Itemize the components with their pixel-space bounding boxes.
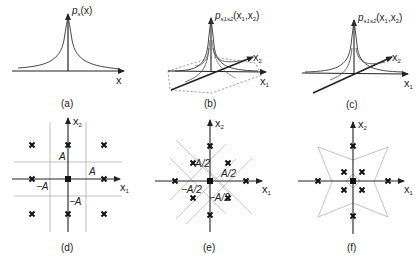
x2label: x2 bbox=[392, 51, 402, 64]
svg-text:−A: −A bbox=[69, 196, 82, 207]
dashed-plane bbox=[168, 57, 262, 93]
x1label: x1 bbox=[120, 181, 130, 194]
svg-text:A/2: A/2 bbox=[194, 158, 210, 169]
x2label: x2 bbox=[73, 115, 83, 128]
svg-text:−A/2: −A/2 bbox=[181, 184, 202, 195]
panel-f: x2 x1 (f) bbox=[298, 118, 414, 253]
svg-text:A/2: A/2 bbox=[220, 168, 236, 179]
svg-text:A: A bbox=[88, 166, 96, 177]
zlabel: ps1s2(x1,x2) bbox=[357, 12, 402, 24]
svg-text:−A: −A bbox=[36, 181, 49, 192]
svg-text:−A/2: −A/2 bbox=[209, 192, 230, 203]
x1label: x1 bbox=[262, 183, 272, 196]
x1label: x1 bbox=[404, 183, 414, 196]
panel-c: ps1s2(x1,x2) x2 x1 (c) bbox=[302, 12, 414, 110]
x1label: x1 bbox=[260, 75, 270, 88]
figure: ps(x) x (a) ps1s2(x1,x2) x2 x1 (b) ps1s2… bbox=[0, 0, 420, 261]
caption-e: (e) bbox=[203, 242, 215, 253]
panel-a: ps(x) x (a) bbox=[12, 5, 124, 109]
x2-axis bbox=[171, 57, 253, 90]
svg-text:A: A bbox=[58, 151, 66, 162]
caption-c: (c) bbox=[346, 99, 358, 110]
xlabel: x bbox=[116, 74, 122, 86]
ylabel: ps(x) bbox=[71, 5, 92, 17]
x1label: x1 bbox=[404, 77, 414, 90]
zlabel: ps1s2(x1,x2) bbox=[214, 10, 259, 22]
caption-f: (f) bbox=[347, 242, 356, 253]
density-curve bbox=[18, 18, 120, 69]
panel-e: A/2 A/2 −A/2 −A/2 x2 x1 (e) bbox=[155, 117, 272, 253]
caption-d: (d) bbox=[61, 242, 73, 253]
panel-b: ps1s2(x1,x2) x2 x1 (b) bbox=[168, 10, 270, 109]
panel-d: A A −A −A x2 x1 (d) bbox=[12, 115, 130, 253]
caption-b: (b) bbox=[204, 98, 216, 109]
caption-a: (a) bbox=[61, 98, 73, 109]
x2label: x2 bbox=[215, 117, 225, 130]
x2-axis bbox=[313, 57, 392, 93]
x2label: x2 bbox=[358, 118, 368, 131]
x2label: x2 bbox=[253, 51, 263, 64]
